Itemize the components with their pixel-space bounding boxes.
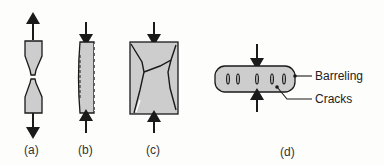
barreling-label: Barreling [315, 69, 363, 83]
cracks-label: Cracks [315, 92, 352, 106]
panel-d-caption: (d) [280, 145, 295, 159]
panel-b-caption: (b) [78, 143, 93, 157]
panel-a-specimen [25, 18, 42, 133]
panel-d-specimen [215, 44, 312, 112]
panel-a-caption: (a) [24, 143, 39, 157]
panel-c-specimen [130, 22, 178, 133]
panel-c-caption: (c) [146, 143, 160, 157]
panel-b-specimen [79, 22, 96, 133]
